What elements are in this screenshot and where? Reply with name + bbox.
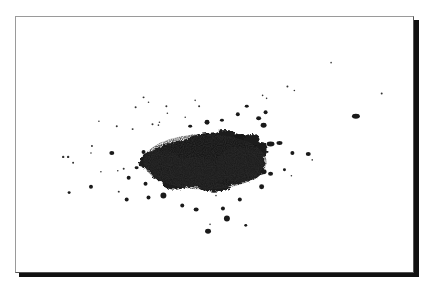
photo-canvas <box>0 0 430 291</box>
photo-frame <box>15 16 414 273</box>
powder-photo <box>16 17 413 272</box>
